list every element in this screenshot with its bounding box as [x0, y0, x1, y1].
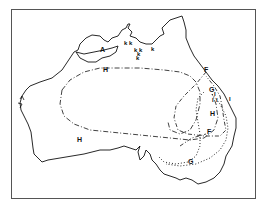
label-F-south: F	[207, 128, 212, 135]
label-A: A	[100, 46, 105, 53]
region-A-boundary	[76, 46, 118, 62]
label-F-north: F	[204, 66, 209, 73]
marker-k: k	[124, 40, 128, 46]
marker-k: k	[151, 46, 155, 52]
marker-I: I	[216, 97, 218, 103]
label-H-north: H	[103, 66, 108, 73]
coastline-islands	[18, 96, 24, 108]
label-H-south: H	[77, 136, 82, 143]
australia-map: H H H F F G G A k k k k k k k I I I I	[0, 0, 264, 209]
boundary-H	[60, 68, 218, 140]
boundary-G	[158, 92, 228, 166]
label-H-east: H	[210, 110, 215, 117]
coastline	[20, 16, 236, 184]
marker-k: k	[129, 40, 133, 46]
marker-I: I	[229, 96, 231, 102]
label-G-south: G	[188, 158, 194, 165]
